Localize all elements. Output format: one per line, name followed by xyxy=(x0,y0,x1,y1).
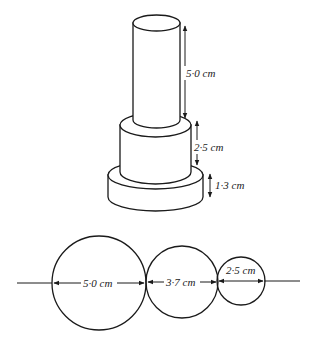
height-dimension-middle: 2·5 cm xyxy=(192,121,238,165)
height-dimension-base: 1·3 cm xyxy=(210,174,244,197)
diameter-label-large: 5·0 cm xyxy=(83,277,112,289)
circles-view: 5·0 cm 3·7 cm 2·5 cm xyxy=(17,236,300,330)
height-label-middle: 2·5 cm xyxy=(194,141,223,153)
diameter-dimension-medium: 3·7 cm xyxy=(148,276,216,288)
diameter-label-medium: 3·7 cm xyxy=(165,276,195,288)
diameter-dimension-small: 2·5 cm xyxy=(219,264,263,281)
height-label-base: 1·3 cm xyxy=(215,179,244,191)
diameter-dimension-large: 5·0 cm xyxy=(54,277,144,289)
diagram-canvas: 5·0 cm 2·5 cm 1·3 cm 5·0 cm 3·7 cm xyxy=(0,0,317,350)
top-cylinder xyxy=(133,15,180,128)
diameter-label-small: 2·5 cm xyxy=(226,264,255,276)
height-label-top: 5·0 cm xyxy=(186,67,215,79)
stacked-cylinders: 5·0 cm 2·5 cm 1·3 cm xyxy=(108,15,244,211)
height-dimension-top: 5·0 cm xyxy=(184,26,230,118)
